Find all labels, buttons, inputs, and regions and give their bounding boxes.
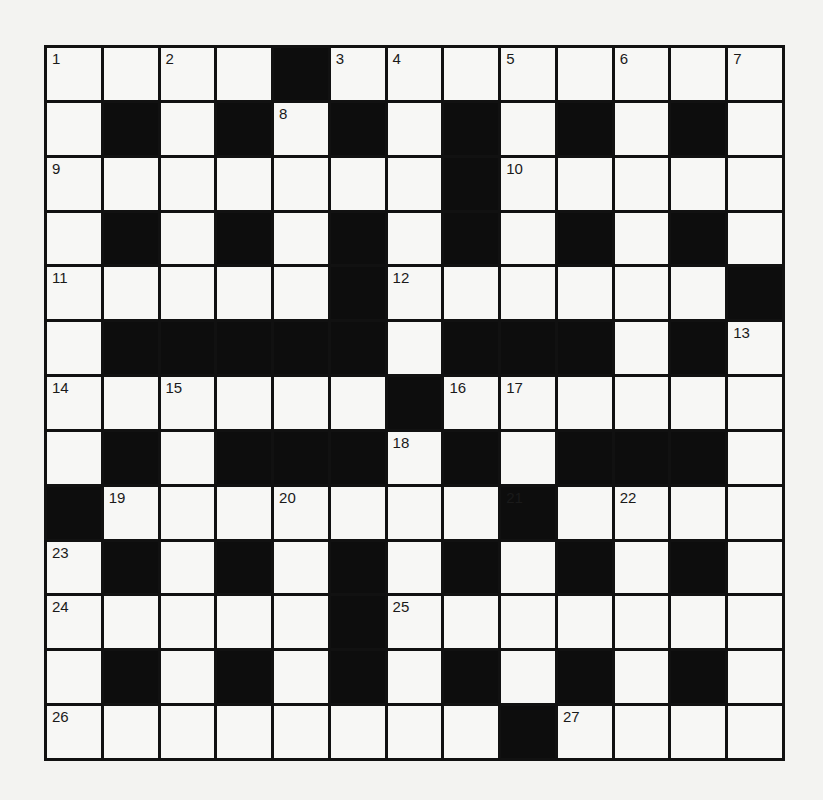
crossword-cell[interactable]: 2 (161, 48, 215, 100)
crossword-cell[interactable] (615, 706, 669, 758)
crossword-cell[interactable] (728, 213, 782, 265)
crossword-cell[interactable] (47, 432, 101, 484)
crossword-cell[interactable]: 4 (388, 48, 442, 100)
crossword-cell[interactable] (444, 48, 498, 100)
crossword-cell[interactable] (728, 103, 782, 155)
crossword-cell[interactable] (388, 103, 442, 155)
crossword-cell[interactable] (501, 651, 555, 703)
crossword-cell[interactable] (501, 267, 555, 319)
crossword-cell[interactable] (388, 213, 442, 265)
crossword-cell[interactable] (47, 213, 101, 265)
crossword-cell[interactable]: 3 (331, 48, 385, 100)
crossword-cell[interactable] (558, 596, 612, 648)
crossword-cell[interactable] (615, 377, 669, 429)
crossword-cell[interactable] (671, 377, 725, 429)
crossword-cell[interactable]: 9 (47, 158, 101, 210)
crossword-cell[interactable]: 10 (501, 158, 555, 210)
crossword-cell[interactable] (274, 267, 328, 319)
crossword-cell[interactable] (558, 377, 612, 429)
crossword-cell[interactable]: 26 (47, 706, 101, 758)
crossword-cell[interactable] (615, 651, 669, 703)
crossword-cell[interactable] (671, 158, 725, 210)
crossword-cell[interactable] (274, 651, 328, 703)
crossword-cell[interactable] (217, 48, 271, 100)
crossword-cell[interactable] (615, 542, 669, 594)
crossword-cell[interactable] (274, 542, 328, 594)
crossword-cell[interactable] (217, 377, 271, 429)
crossword-cell[interactable] (728, 596, 782, 648)
crossword-cell[interactable] (444, 267, 498, 319)
crossword-cell[interactable] (161, 103, 215, 155)
crossword-cell[interactable] (331, 158, 385, 210)
crossword-cell[interactable] (728, 542, 782, 594)
crossword-cell[interactable] (615, 596, 669, 648)
crossword-cell[interactable] (161, 596, 215, 648)
crossword-cell[interactable] (615, 103, 669, 155)
crossword-cell[interactable] (501, 596, 555, 648)
crossword-cell[interactable] (217, 596, 271, 648)
crossword-cell[interactable] (331, 487, 385, 539)
crossword-cell[interactable] (501, 542, 555, 594)
crossword-cell[interactable] (558, 267, 612, 319)
crossword-cell[interactable]: 25 (388, 596, 442, 648)
crossword-cell[interactable]: 17 (501, 377, 555, 429)
crossword-cell[interactable]: 6 (615, 48, 669, 100)
crossword-cell[interactable] (615, 267, 669, 319)
crossword-cell[interactable]: 16 (444, 377, 498, 429)
crossword-cell[interactable] (671, 596, 725, 648)
crossword-cell[interactable] (161, 213, 215, 265)
crossword-cell[interactable] (671, 487, 725, 539)
crossword-cell[interactable] (47, 322, 101, 374)
crossword-cell[interactable] (558, 48, 612, 100)
crossword-cell[interactable] (615, 213, 669, 265)
crossword-cell[interactable] (558, 158, 612, 210)
crossword-cell[interactable] (161, 267, 215, 319)
crossword-cell[interactable]: 14 (47, 377, 101, 429)
crossword-cell[interactable] (331, 706, 385, 758)
crossword-cell[interactable]: 20 (274, 487, 328, 539)
crossword-cell[interactable] (104, 48, 158, 100)
crossword-cell[interactable] (671, 267, 725, 319)
crossword-cell[interactable] (388, 542, 442, 594)
crossword-cell[interactable] (671, 48, 725, 100)
crossword-cell[interactable]: 15 (161, 377, 215, 429)
crossword-cell[interactable] (388, 651, 442, 703)
crossword-cell[interactable] (274, 596, 328, 648)
crossword-cell[interactable] (728, 651, 782, 703)
crossword-cell[interactable] (274, 377, 328, 429)
crossword-cell[interactable] (161, 158, 215, 210)
crossword-cell[interactable] (728, 377, 782, 429)
crossword-cell[interactable] (388, 706, 442, 758)
crossword-cell[interactable] (104, 706, 158, 758)
crossword-cell[interactable] (161, 487, 215, 539)
crossword-cell[interactable]: 12 (388, 267, 442, 319)
crossword-cell[interactable] (501, 432, 555, 484)
crossword-cell[interactable] (444, 596, 498, 648)
crossword-cell[interactable] (47, 651, 101, 703)
crossword-cell[interactable] (217, 158, 271, 210)
crossword-cell[interactable]: 27 (558, 706, 612, 758)
crossword-cell[interactable]: 11 (47, 267, 101, 319)
crossword-cell[interactable] (47, 103, 101, 155)
crossword-cell[interactable]: 7 (728, 48, 782, 100)
crossword-cell[interactable] (161, 542, 215, 594)
crossword-cell[interactable] (274, 158, 328, 210)
crossword-cell[interactable] (501, 103, 555, 155)
crossword-cell[interactable] (728, 487, 782, 539)
crossword-cell[interactable]: 22 (615, 487, 669, 539)
crossword-cell[interactable]: 18 (388, 432, 442, 484)
crossword-cell[interactable] (104, 158, 158, 210)
crossword-cell[interactable]: 5 (501, 48, 555, 100)
crossword-cell[interactable] (671, 706, 725, 758)
crossword-cell[interactable] (331, 377, 385, 429)
crossword-cell[interactable] (388, 487, 442, 539)
crossword-cell[interactable] (615, 322, 669, 374)
crossword-cell[interactable] (104, 377, 158, 429)
crossword-cell[interactable] (104, 267, 158, 319)
crossword-cell[interactable] (728, 158, 782, 210)
crossword-cell[interactable] (615, 158, 669, 210)
crossword-cell[interactable] (728, 432, 782, 484)
crossword-cell[interactable] (274, 213, 328, 265)
crossword-cell[interactable] (217, 487, 271, 539)
crossword-cell[interactable] (444, 706, 498, 758)
